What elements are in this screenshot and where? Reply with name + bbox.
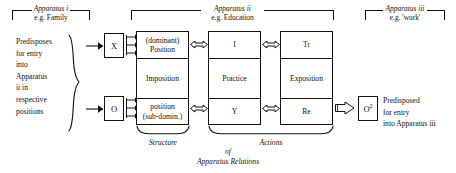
arrow-into-o-icon — [86, 104, 104, 114]
note-line: respective — [16, 94, 52, 106]
bracket-subtitle: e.g. 'work' — [365, 14, 445, 23]
actions-under-brace — [208, 125, 334, 136]
bracket-subtitle: e.g. Family — [12, 14, 90, 23]
cell-line-1: Imposition — [146, 74, 179, 83]
note-line: positions — [16, 106, 52, 118]
caption-actions: Actions — [208, 138, 334, 147]
left-grouping-brace — [66, 33, 82, 133]
actions-column-2: Tr Exposition Re — [280, 31, 333, 125]
arrow-into-x-icon — [86, 41, 104, 51]
bracket-apparatus-i: Apparatus i e.g. Family — [12, 2, 90, 24]
double-arrow-structure-actions-top-icon — [190, 39, 208, 50]
cell-line-1: Re — [302, 107, 310, 116]
agent-box-x[interactable]: X — [104, 33, 124, 58]
note-line: for entry — [16, 48, 52, 60]
note-line: Predisposes — [16, 36, 52, 48]
cell-line-1: Practice — [222, 74, 246, 83]
cell-line-1: position — [150, 102, 174, 111]
arrow-to-output-icon — [335, 101, 355, 115]
cell-line-1: Y — [232, 107, 237, 116]
note-line: Predisposed — [383, 95, 436, 107]
structure-cell-sub-dominant-position[interactable]: position (sub-domin.) — [137, 99, 188, 124]
cell-line-2: (sub-domin.) — [143, 112, 182, 121]
double-arrow-structure-actions-bottom-icon — [190, 103, 208, 114]
agent-box-o[interactable]: O — [104, 96, 124, 121]
bracket-apparatus-iii: Apparatus iii e.g. 'work' — [365, 2, 445, 24]
caption-of: of — [178, 147, 278, 156]
bracket-apparatus-ii: Apparatus ii e.g. Education — [131, 2, 334, 24]
note-line: for entry — [383, 107, 436, 119]
double-arrow-actions-top-icon — [262, 39, 280, 50]
actions-cell-practice[interactable]: Practice — [209, 59, 260, 99]
actions-cell-y[interactable]: Y — [209, 99, 260, 124]
double-arrow-actions-bottom-icon — [262, 103, 280, 114]
output-predisposed-note: Predisposed for entry into Apparatus iii — [383, 95, 436, 130]
structure-cell-dominant-position[interactable]: (dominant) Position — [137, 32, 188, 59]
structure-column: (dominant) Position Imposition position … — [136, 31, 189, 125]
cell-line-1: (dominant) — [146, 36, 180, 45]
structure-under-brace — [136, 125, 190, 136]
cell-line-1: Exposition — [290, 74, 323, 83]
note-line: ii in — [16, 82, 52, 94]
note-line: Apparatus — [16, 71, 52, 83]
actions-column-1: I Practice Y — [208, 31, 261, 125]
caption-apparatus-relations: Apparatus Relations — [158, 157, 298, 166]
agent-box-o-label: O — [111, 104, 117, 114]
left-predisposes-note: Predisposes for entry into Apparatus ii … — [16, 36, 52, 117]
caption-structure: Structure — [136, 138, 190, 147]
actions-cell-i[interactable]: I — [209, 32, 260, 59]
actions-cell-tr[interactable]: Tr — [281, 32, 332, 59]
actions-cell-re[interactable]: Re — [281, 99, 332, 124]
actions-cell-exposition[interactable]: Exposition — [281, 59, 332, 99]
bracket-subtitle: e.g. Education — [131, 14, 334, 23]
note-line: into — [16, 59, 52, 71]
note-line: into Apparatus iii — [383, 118, 436, 130]
agent-box-x-label: X — [111, 41, 117, 51]
output-box-superscript: 2 — [370, 103, 373, 109]
cell-line-1: I — [233, 40, 236, 49]
apparatus-relations-diagram: Apparatus i e.g. Family Apparatus ii e.g… — [0, 0, 456, 173]
cell-line-1: Tr — [303, 40, 310, 49]
structure-cell-imposition[interactable]: Imposition — [137, 59, 188, 99]
output-box-o-squared[interactable]: O2 — [358, 96, 378, 121]
cell-line-2: Position — [150, 45, 175, 54]
